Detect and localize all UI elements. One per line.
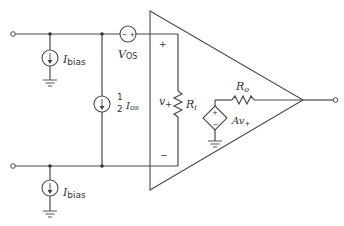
vos-voltage-source: − + [120, 26, 136, 42]
ri-label: Ri [185, 98, 197, 112]
circuit-diagram: − + VOS Ri v+ + − Ibias [0, 0, 344, 226]
ios-current-source [94, 34, 110, 166]
ios-label: 1 2 Ios [117, 92, 139, 114]
ibias-top-current-source [42, 34, 58, 86]
ro-resistor [215, 96, 303, 104]
bottom-input-wire [11, 164, 178, 169]
plus-input-label: + [159, 39, 167, 49]
v-plus-label: v+ [159, 95, 172, 109]
vos-label: VOS [118, 48, 137, 61]
ibias-bottom-label: Ibias [62, 186, 86, 200]
av-plus-label: Av+ [231, 115, 250, 128]
top-input-wire [11, 32, 178, 37]
minus-input-label: − [160, 150, 168, 160]
svg-text:Ios: Ios [125, 100, 139, 112]
bottom-input-terminal[interactable] [11, 164, 16, 169]
svg-text:2: 2 [117, 104, 123, 114]
ibias-top-label: Ibias [62, 53, 86, 67]
top-input-terminal[interactable] [11, 32, 16, 37]
svg-text:− +: − + [122, 31, 136, 39]
dependent-voltage-source: + − [203, 100, 227, 147]
ground-icon [43, 211, 57, 217]
ri-resistor [174, 91, 182, 117]
svg-text:−: − [213, 121, 219, 129]
ground-icon [43, 80, 57, 86]
svg-text:+: + [212, 109, 218, 117]
svg-text:1: 1 [117, 92, 123, 102]
ro-label: Ro [235, 80, 249, 94]
ibias-bottom-current-source [42, 166, 58, 217]
ground-icon [208, 141, 222, 147]
output-terminal[interactable] [333, 98, 338, 103]
